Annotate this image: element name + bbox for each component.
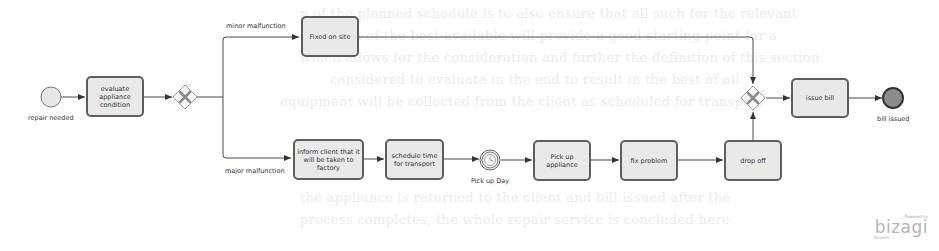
task-issue-bill[interactable]: issue bill [791,78,849,118]
bizagi-branding: Powered by bizagi Modeler [868,214,928,240]
task-pick-up-appliance[interactable]: Pick up appliance [533,140,591,181]
task-label: schedule time for transport [389,152,440,168]
start-event-label: repair needed [28,114,74,122]
end-event-label: bill issued [877,115,909,123]
task-drop-off[interactable]: drop off [724,140,782,181]
bizagi-logo: bizagi [868,219,928,235]
end-event-circle[interactable] [883,88,903,108]
task-label: issue bill [806,94,834,102]
bpmn-diagram-canvas [0,0,939,251]
flow-minor-malfunction[interactable] [223,37,299,97]
task-inform-client[interactable]: inform client that it will be taken to f… [293,139,364,180]
task-schedule-transport[interactable]: schedule time for transport [385,139,444,180]
start-event-circle[interactable] [41,87,61,107]
timer-intermediate-event[interactable] [480,150,500,170]
flow-label-minor-malfunction: minor malfunction [226,22,286,30]
task-label: Fixed on site [310,33,351,41]
task-fixed-on-site[interactable]: Fixed on site [301,16,359,57]
task-label: fix problem [631,157,668,165]
exclusive-gateway-split[interactable] [173,85,197,109]
timer-event-label: Pick up Day [471,177,509,185]
flow-fixed-to-merge[interactable] [359,37,753,84]
exclusive-gateway-merge[interactable] [741,86,765,110]
task-label: Pick up appliance [537,153,587,169]
flow-major-malfunction[interactable] [223,97,291,158]
flow-label-major-malfunction: major malfunction [225,167,285,175]
task-label: inform client that it will be taken to f… [297,148,360,172]
task-evaluate-appliance-condition[interactable]: evaluate appliance condition [86,76,144,117]
task-label: evaluate appliance condition [90,85,140,109]
task-fix-problem[interactable]: fix problem [620,140,678,181]
task-label: drop off [740,157,765,165]
